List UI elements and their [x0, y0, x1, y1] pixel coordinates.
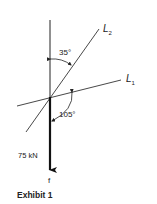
force-name-label: f: [48, 176, 51, 185]
angle-arc-35: [50, 59, 71, 65]
angle-label-105: 105°: [59, 110, 76, 119]
angle-label-35: 35°: [59, 48, 71, 57]
label-L2: L2: [103, 23, 113, 36]
force-diagram: L2 L1 35° 105° 75 kN f Exhibit 1: [0, 0, 157, 204]
force-magnitude-label: 75 kN: [18, 151, 38, 160]
exhibit-caption: Exhibit 1: [17, 190, 53, 200]
line-L1: [17, 80, 121, 106]
label-L1: L1: [126, 73, 136, 86]
